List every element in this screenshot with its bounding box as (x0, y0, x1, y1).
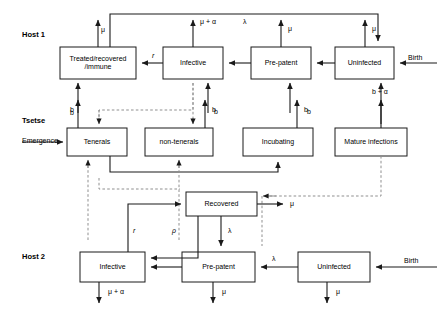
rate-h2-r-recovery: r (133, 227, 135, 234)
box-host2-infective (80, 252, 145, 282)
rate-h2-lambda-recovered: λ (228, 227, 232, 234)
rate-h1-mu-treated: μ (101, 26, 105, 33)
dashed-h1-infective-to-tsetse-feed (99, 83, 193, 122)
box-host1-uninfected (335, 47, 394, 79)
rate-tsetse-b-nontenerals: b (212, 106, 216, 113)
dashed-h2-recovered-to-tenerals (99, 178, 180, 189)
rate-h2-mu-alpha-infective: μ + α (108, 288, 124, 295)
box-host1-prepatent (251, 47, 311, 79)
row-label-tsetse: Tsetse (22, 116, 45, 125)
box-host2-prepatent (182, 252, 255, 282)
arrow-tsetse-tenerals-to-incubating (110, 156, 278, 172)
box-tsetse-tenerals (67, 128, 127, 156)
rate-h1-mu-prepatent: μ (288, 25, 292, 32)
rate-h2-rho-relapse: ρ (172, 227, 176, 234)
rate-h1-r-recovery: r (152, 52, 154, 59)
box-host1-infective (163, 47, 223, 79)
box-host2-recovered (186, 192, 257, 216)
row-label-host2: Host 2 (22, 252, 45, 261)
box-host2-uninfected (298, 252, 370, 282)
rate-h1-lambda-top: λ (243, 18, 247, 25)
box-tsetse-nontenerals (145, 128, 213, 156)
rate-h1-b-alpha-uninfected: b + α (372, 88, 388, 95)
row-label-host1: Host 1 (22, 30, 45, 39)
figure-canvas: Host 1 Tsetse Host 2 Treated/recovered /… (0, 0, 439, 314)
rate-h2-mu-prepatent: μ (222, 288, 226, 295)
rate-h2-birth: Birth (404, 257, 418, 264)
rate-tsetse-b-tenerals: b (70, 106, 74, 113)
rate-h2-mu-recovered: μ (290, 200, 294, 207)
rate-tsetse-emergence: Emergence (22, 137, 58, 144)
diagram-vectors (0, 0, 439, 314)
box-host1-treated (60, 47, 136, 79)
rate-h2-mu-uninfected: μ (336, 288, 340, 295)
rate-h2-lambda-uninfected: λ (272, 255, 276, 262)
rate-tsetse-b-incubating: b (304, 106, 308, 113)
dashed-mature-to-host2-recovered (267, 156, 381, 196)
rate-h1-birth: Birth (408, 54, 422, 61)
rate-h1-mu-alpha-infective: μ + α (200, 18, 216, 25)
rate-h1-mu-uninfected: μ (372, 25, 376, 32)
box-tsetse-mature (335, 128, 407, 156)
box-tsetse-incubating (243, 128, 313, 156)
